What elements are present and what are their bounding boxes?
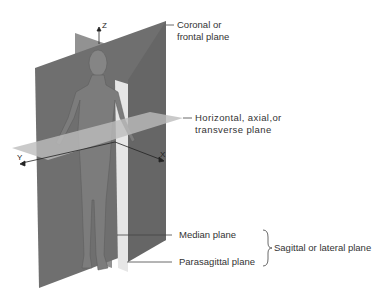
anatomical-planes-figure: Z X Y Coronal or frontal plane Horizonta…: [0, 0, 384, 300]
y-axis-label: Y: [17, 153, 22, 162]
median-plane-label: Median plane: [179, 229, 236, 241]
x-axis-label: X: [160, 150, 165, 159]
sagittal-plane-group-label: Sagittal or lateral plane: [274, 242, 371, 254]
z-axis-label: Z: [102, 21, 107, 30]
coronal-plane-label: Coronal or frontal plane: [177, 19, 229, 42]
parasagittal-plane-label: Parasagittal plane: [179, 256, 255, 268]
sagittal-brace: [263, 230, 272, 266]
horizontal-plane-label: Horizontal, axial,or transverse plane: [195, 112, 282, 135]
planes-illustration: [0, 0, 384, 300]
